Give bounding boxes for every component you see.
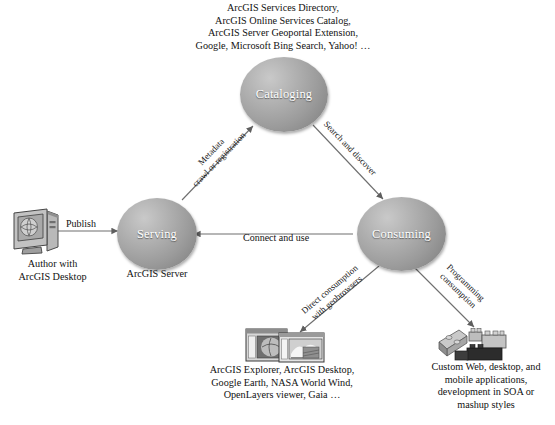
- caption-cataloging-line3: ArcGIS Server Geoportal Extension,: [183, 27, 383, 40]
- caption-cataloging-line4: Google, Microsoft Bing Search, Yahoo! …: [183, 40, 383, 53]
- caption-cataloging-line1: ArcGIS Services Directory,: [183, 2, 383, 15]
- caption-author-line2: ArcGIS Desktop: [0, 271, 105, 284]
- caption-custom-apps: Custom Web, desktop, and mobile applicat…: [417, 361, 555, 411]
- caption-author-line1: Author with: [0, 258, 105, 271]
- diagram-canvas: Cataloging Serving Consuming Publish Con…: [0, 0, 555, 425]
- caption-geobrowsers-line2: Google Earth, NASA World Wind,: [192, 377, 372, 390]
- caption-custom-apps-line4: mashup styles: [417, 399, 555, 412]
- caption-cataloging-sources: ArcGIS Services Directory, ArcGIS Online…: [183, 2, 383, 52]
- caption-custom-apps-line3: development in SOA or: [417, 386, 555, 399]
- caption-custom-apps-line2: mobile applications,: [417, 374, 555, 387]
- caption-arcgis-server: ArcGIS Server: [107, 268, 207, 281]
- caption-author-desktop: Author with ArcGIS Desktop: [0, 258, 105, 283]
- map-windows-icon: [245, 327, 325, 363]
- caption-geobrowsers: ArcGIS Explorer, ArcGIS Desktop, Google …: [192, 364, 372, 402]
- desktop-computer-icon: [11, 205, 65, 255]
- building-blocks-icon: [437, 322, 522, 364]
- caption-geobrowsers-line1: ArcGIS Explorer, ArcGIS Desktop,: [192, 364, 372, 377]
- node-cataloging-label: Cataloging: [256, 87, 312, 102]
- caption-cataloging-line2: ArcGIS Online Services Catalog,: [183, 15, 383, 28]
- node-consuming-label: Consuming: [372, 227, 431, 242]
- node-serving[interactable]: Serving: [117, 198, 197, 270]
- node-serving-label: Serving: [137, 227, 177, 242]
- edge-label-publish: Publish: [66, 218, 96, 229]
- edge-label-connect-and-use: Connect and use: [243, 232, 309, 243]
- caption-arcgis-server-line1: ArcGIS Server: [107, 268, 207, 281]
- caption-geobrowsers-line3: OpenLayers viewer, Gaia …: [192, 389, 372, 402]
